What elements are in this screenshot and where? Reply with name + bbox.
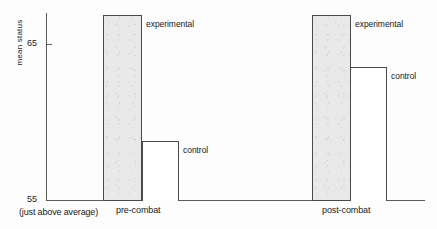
category-label-post-combat: post-combat — [322, 205, 370, 215]
category-label-pre-combat: pre-combat — [116, 205, 161, 215]
series-label-pre-combat-control: control — [183, 145, 208, 155]
series-label-post-combat-control: control — [391, 71, 416, 81]
y-axis-tick-65 — [46, 44, 52, 45]
series-label-post-combat-experimental: experimental — [355, 19, 403, 29]
y-axis-tick-label-65: 65 — [27, 38, 37, 48]
bar-post-combat-experimental — [312, 15, 351, 201]
baseline-note: (just above average) — [19, 207, 98, 217]
series-label-pre-combat-experimental: experimental — [146, 19, 194, 29]
bar-chart-figure: mean status 65 55 (just above average) e… — [0, 0, 437, 229]
y-axis-tick-label-55: 55 — [27, 194, 37, 204]
bar-pre-combat-experimental — [103, 15, 142, 201]
bar-post-combat-control — [350, 67, 387, 201]
y-axis-line — [46, 13, 47, 201]
y-axis-title: mean status — [15, 8, 24, 78]
bar-pre-combat-control — [142, 141, 179, 201]
